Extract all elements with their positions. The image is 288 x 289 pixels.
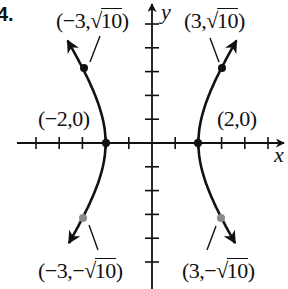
y-axis (145, 4, 159, 289)
y-axis-label: y (161, 1, 171, 23)
point-upper-right (218, 64, 226, 72)
label-lower-right: (3,−√10) (182, 258, 255, 282)
sqrt-symbol: √10 (84, 258, 116, 282)
sqrt-symbol: √10 (216, 258, 248, 282)
point-vertex-right (194, 139, 202, 147)
label-upper-right: (3,√10) (184, 8, 245, 32)
point-vertex-left (102, 139, 110, 147)
point-upper-left (80, 64, 88, 72)
right-branch-curve (198, 41, 236, 243)
x-axis-label: x (274, 144, 284, 166)
problem-number: 4. (0, 4, 14, 24)
x-axis (17, 137, 284, 149)
label-vertex-left: (−2,0) (38, 108, 90, 130)
hyperbola-graph (0, 0, 288, 289)
label-prefix: (−3, (56, 8, 90, 33)
label-prefix: (3, (184, 8, 206, 33)
label-vertex-right: (2,0) (217, 108, 257, 130)
point-lower-left (79, 214, 87, 222)
label-prefix: (3,− (182, 258, 216, 283)
point-lower-right (217, 214, 225, 222)
label-prefix: (−3,− (38, 258, 84, 283)
sqrt-symbol: √10 (206, 8, 238, 32)
label-upper-left: (−3,√10) (56, 8, 129, 32)
label-lower-left: (−3,−√10) (38, 258, 123, 282)
sqrt-symbol: √10 (90, 8, 122, 32)
left-branch-curve (68, 41, 106, 243)
